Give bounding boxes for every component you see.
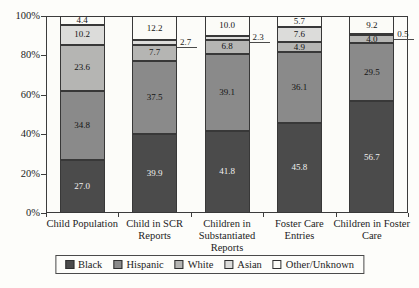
x-tick-mark bbox=[46, 213, 47, 217]
bar-segment-other-unknown: 9.2 bbox=[349, 16, 394, 34]
x-category-label-line: Children in Foster bbox=[327, 218, 417, 230]
callout-leader-line bbox=[250, 42, 270, 43]
bar-segment-white: 6.8 bbox=[205, 40, 250, 53]
segment-value-callout: 2.3 bbox=[253, 33, 264, 42]
x-category-label: Children in FosterCare bbox=[327, 218, 417, 242]
y-tick-mark bbox=[41, 95, 46, 96]
segment-value-label: 41.8 bbox=[219, 167, 235, 176]
y-tick-label: 60% bbox=[0, 89, 40, 101]
callout-leader-line bbox=[394, 39, 414, 40]
x-tick-mark bbox=[118, 213, 119, 217]
segment-value-label: 39.9 bbox=[147, 169, 163, 178]
bar-segment-hispanic: 29.5 bbox=[349, 43, 394, 101]
bar-segment-black: 39.9 bbox=[132, 134, 177, 213]
segment-value-label: 39.1 bbox=[219, 88, 235, 97]
bar-segment-white: 7.7 bbox=[132, 45, 177, 60]
bar-segment-black: 56.7 bbox=[349, 101, 394, 213]
segment-value-label: 29.5 bbox=[364, 68, 380, 77]
bar-segment-white: 4.0 bbox=[349, 35, 394, 43]
segment-value-label: 9.2 bbox=[366, 21, 377, 30]
bar-segment-other-unknown: 10.0 bbox=[205, 16, 250, 36]
x-tick-mark bbox=[408, 213, 409, 217]
legend-swatch bbox=[113, 260, 122, 269]
bar-segment-hispanic: 37.5 bbox=[132, 61, 177, 135]
stacked-bar-chart-figure: BlackHispanicWhiteAsianOther/Unknown 0%2… bbox=[0, 0, 419, 288]
legend-swatch bbox=[65, 260, 74, 269]
y-tick-mark bbox=[41, 174, 46, 175]
segment-value-label: 10.2 bbox=[74, 30, 90, 39]
legend-swatch bbox=[175, 260, 184, 269]
bar-segment-other-unknown: 5.7 bbox=[277, 16, 322, 27]
bar-segment-white: 4.9 bbox=[277, 42, 322, 52]
legend-item: Black bbox=[65, 259, 103, 270]
y-tick-label: 80% bbox=[0, 49, 40, 61]
bar-segment-black: 27.0 bbox=[60, 160, 105, 213]
bar-segment-black: 45.8 bbox=[277, 123, 322, 213]
legend-item: White bbox=[175, 259, 214, 270]
segment-value-label: 4.4 bbox=[77, 16, 88, 25]
legend-label: Other/Unknown bbox=[286, 259, 354, 270]
y-tick-label: 100% bbox=[0, 10, 40, 22]
legend-item: Hispanic bbox=[113, 259, 163, 270]
segment-value-label: 5.7 bbox=[294, 17, 305, 26]
bar-segment-hispanic: 34.8 bbox=[60, 91, 105, 160]
legend-swatch bbox=[273, 260, 282, 269]
segment-value-label: 56.7 bbox=[364, 153, 380, 162]
segment-value-label: 36.1 bbox=[292, 83, 308, 92]
x-tick-mark bbox=[191, 213, 192, 217]
legend-swatch bbox=[224, 260, 233, 269]
bar-segment-asian bbox=[132, 40, 177, 45]
segment-value-label: 12.2 bbox=[147, 24, 163, 33]
bar-segment-asian: 10.2 bbox=[60, 25, 105, 45]
y-tick-mark bbox=[41, 16, 46, 17]
legend-item: Asian bbox=[224, 259, 262, 270]
bar-segment-other-unknown: 12.2 bbox=[132, 16, 177, 40]
bar-segment-hispanic: 39.1 bbox=[205, 54, 250, 131]
y-tick-label: 20% bbox=[0, 168, 40, 180]
legend-label: Asian bbox=[237, 259, 262, 270]
segment-value-callout: 0.5 bbox=[397, 30, 408, 39]
x-tick-mark bbox=[336, 213, 337, 217]
bar-segment-asian bbox=[205, 36, 250, 41]
legend: BlackHispanicWhiteAsianOther/Unknown bbox=[55, 255, 364, 274]
segment-value-label: 10.0 bbox=[219, 21, 235, 30]
x-category-label-line: Care bbox=[327, 230, 417, 242]
legend-item: Other/Unknown bbox=[273, 259, 354, 270]
legend-label: Hispanic bbox=[126, 259, 163, 270]
legend-label: White bbox=[188, 259, 214, 270]
bar-segment-other-unknown: 4.4 bbox=[60, 16, 105, 25]
callout-leader-line bbox=[177, 47, 197, 48]
y-tick-mark bbox=[41, 134, 46, 135]
bar-segment-hispanic: 36.1 bbox=[277, 52, 322, 123]
segment-value-label: 45.8 bbox=[292, 163, 308, 172]
segment-value-callout: 2.7 bbox=[180, 38, 191, 47]
x-category-label-line: Reports bbox=[182, 242, 272, 254]
y-tick-label: 40% bbox=[0, 128, 40, 140]
segment-value-label: 23.6 bbox=[74, 63, 90, 72]
segment-value-label: 4.9 bbox=[294, 43, 305, 52]
bar-segment-black: 41.8 bbox=[205, 131, 250, 213]
segment-value-label: 27.0 bbox=[74, 182, 90, 191]
x-tick-mark bbox=[263, 213, 264, 217]
bar-segment-white: 23.6 bbox=[60, 45, 105, 91]
y-tick-label: 0% bbox=[0, 207, 40, 219]
segment-value-label: 34.8 bbox=[74, 121, 90, 130]
segment-value-label: 6.8 bbox=[221, 42, 232, 51]
y-tick-mark bbox=[41, 55, 46, 56]
bar-segment-asian: 7.6 bbox=[277, 27, 322, 42]
segment-value-label: 7.7 bbox=[149, 48, 160, 57]
legend-label: Black bbox=[78, 259, 103, 270]
bar-segment-asian bbox=[349, 34, 394, 36]
segment-value-label: 37.5 bbox=[147, 93, 163, 102]
segment-value-label: 7.6 bbox=[294, 30, 305, 39]
